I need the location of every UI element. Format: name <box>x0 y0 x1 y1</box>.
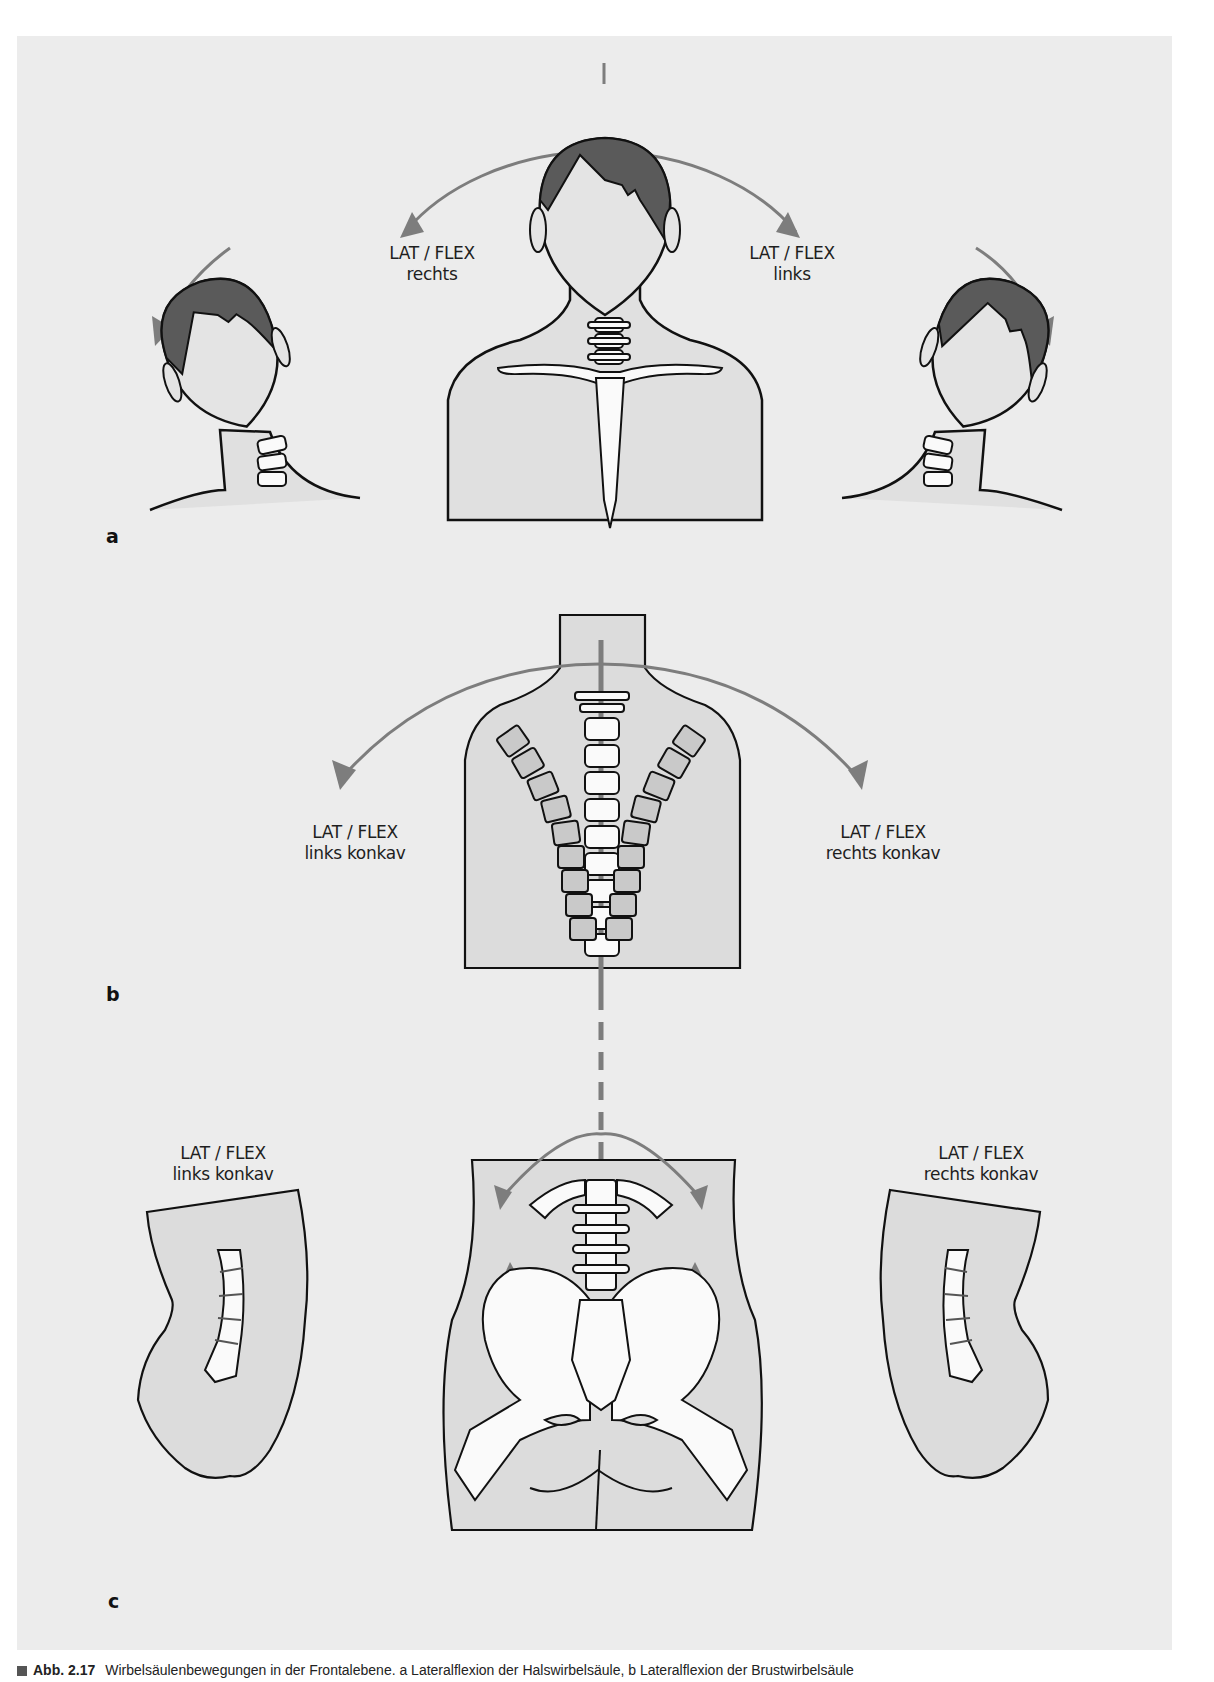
label-line: links konkav <box>290 843 420 864</box>
label-line: LAT / FLEX <box>732 243 852 264</box>
label-line: links konkav <box>158 1164 288 1185</box>
label-line: LAT / FLEX <box>290 822 420 843</box>
figure-number: Abb. 2.17 <box>33 1662 95 1678</box>
label-a-lat-flex-left: LAT / FLEX links <box>732 243 852 285</box>
label-line: LAT / FLEX <box>362 243 502 264</box>
caption-text: Wirbelsäulenbewegungen in der Frontalebe… <box>105 1662 854 1678</box>
panel-letter-c: c <box>108 1590 119 1612</box>
label-b-lat-flex-right-concave: LAT / FLEX rechts konkav <box>808 822 958 864</box>
panel-b-illustration <box>332 615 868 1010</box>
label-c-lat-flex-right-concave: LAT / FLEX rechts konkav <box>906 1143 1056 1185</box>
label-line: rechts <box>362 264 502 285</box>
spine-lateral-flexion-illustration <box>0 0 1214 1682</box>
label-line: rechts konkav <box>808 843 958 864</box>
figure-caption: Abb. 2.17Wirbelsäulenbewegungen in der F… <box>17 1662 1197 1682</box>
panel-c-illustration <box>138 1134 1048 1530</box>
caption-square-icon <box>17 1666 27 1676</box>
label-line: LAT / FLEX <box>906 1143 1056 1164</box>
label-line: links <box>732 264 852 285</box>
label-c-lat-flex-left-concave: LAT / FLEX links konkav <box>158 1143 288 1185</box>
label-line: LAT / FLEX <box>808 822 958 843</box>
label-b-lat-flex-left-concave: LAT / FLEX links konkav <box>290 822 420 864</box>
label-a-lat-flex-right: LAT / FLEX rechts <box>362 243 502 285</box>
panel-a-illustration <box>139 63 1071 528</box>
panel-letter-b: b <box>106 983 120 1005</box>
label-line: LAT / FLEX <box>158 1143 288 1164</box>
panel-letter-a: a <box>106 525 119 547</box>
label-line: rechts konkav <box>906 1164 1056 1185</box>
